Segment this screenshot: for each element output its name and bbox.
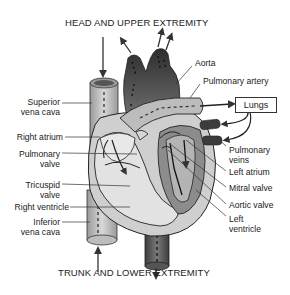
label-right-ventricle: Right ventricle <box>15 202 69 212</box>
lungs-box: Lungs <box>235 97 277 113</box>
label-left-atrium: Left atrium <box>229 167 270 177</box>
label-superior-vena-cava: Superiorvena cava <box>21 97 60 117</box>
label-pulmonary-valve: Pulmonaryvalve <box>19 149 60 169</box>
label-left-ventricle: Leftventricle <box>229 214 261 234</box>
label-pulmonary-veins: Pulmonaryveins <box>229 145 270 165</box>
pulmonary-vein-upper <box>200 119 221 130</box>
aorta-outflow-arrow-1 <box>122 40 131 53</box>
label-aorta: Aorta <box>195 58 216 68</box>
label-pulmonary-artery: Pulmonary artery <box>203 76 268 86</box>
bottom-title: TRUNK AND LOWER EXTREMITY <box>58 267 210 278</box>
label-right-atrium: Right atrium <box>17 132 63 142</box>
label-tricuspid-valve: Tricuspidvalve <box>25 180 60 200</box>
label-aortic-valve: Aortic valve <box>229 200 273 210</box>
label-mitral-valve: Mitral valve <box>229 183 272 193</box>
aorta-outflow-arrow-3 <box>166 36 171 50</box>
label-inferior-vena-cava: Inferiorvena cava <box>21 217 60 237</box>
top-title: HEAD AND UPPER EXTREMITY <box>65 17 208 28</box>
aorta-outflow-arrow-2 <box>158 31 162 47</box>
pulmonary-vein-lower <box>202 136 222 145</box>
